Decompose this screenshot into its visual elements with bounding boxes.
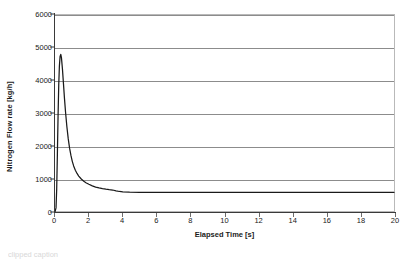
figure-nitrogen-flow-rate: Nitrogen Flow rate [kg/h] 01000200030004… <box>0 0 411 259</box>
x-tick-label-2: 2 <box>86 216 90 225</box>
x-tick-mark-6 <box>156 213 157 217</box>
x-tick-mark-8 <box>190 213 191 217</box>
plot-area <box>54 14 395 212</box>
x-axis-tick-labels: 02468101214161820 <box>0 216 411 230</box>
y-tick-mark-3000 <box>50 113 55 114</box>
x-tick-mark-0 <box>54 213 55 217</box>
y-tick-mark-6000 <box>50 14 55 15</box>
y-tick-label-4000: 4000 <box>22 76 52 85</box>
x-tick-label-4: 4 <box>120 216 124 225</box>
data-series-line <box>55 15 394 212</box>
x-tick-label-18: 18 <box>357 216 365 225</box>
x-tick-mark-16 <box>327 213 328 217</box>
x-tick-mark-14 <box>293 213 294 217</box>
x-tick-label-8: 8 <box>188 216 192 225</box>
y-tick-label-6000: 6000 <box>22 10 52 19</box>
figure-caption-text: clipped caption <box>8 250 338 259</box>
y-tick-mark-4000 <box>50 80 55 81</box>
x-tick-mark-10 <box>225 213 226 217</box>
y-tick-label-5000: 5000 <box>22 43 52 52</box>
x-tick-mark-12 <box>259 213 260 217</box>
y-tick-label-3000: 3000 <box>22 109 52 118</box>
y-axis-title-text: Nitrogen Flow rate [kg/h] <box>5 81 14 172</box>
y-tick-mark-1000 <box>50 179 55 180</box>
x-tick-label-10: 10 <box>220 216 228 225</box>
x-tick-mark-4 <box>122 213 123 217</box>
x-tick-mark-18 <box>361 213 362 217</box>
y-tick-mark-5000 <box>50 47 55 48</box>
x-tick-label-20: 20 <box>391 216 399 225</box>
y-tick-label-2000: 2000 <box>22 142 52 151</box>
figure-caption-clipped: clipped caption <box>8 250 338 259</box>
y-axis-title: Nitrogen Flow rate [kg/h] <box>2 46 16 206</box>
x-tick-label-0: 0 <box>52 216 56 225</box>
x-axis-title: Elapsed Time [s] <box>54 230 395 239</box>
x-tick-label-12: 12 <box>254 216 262 225</box>
x-tick-mark-20 <box>395 213 396 217</box>
x-tick-mark-2 <box>88 213 89 217</box>
y-tick-mark-2000 <box>50 146 55 147</box>
y-tick-label-1000: 1000 <box>22 175 52 184</box>
x-tick-label-6: 6 <box>154 216 158 225</box>
x-tick-label-14: 14 <box>289 216 297 225</box>
x-tick-label-16: 16 <box>323 216 331 225</box>
